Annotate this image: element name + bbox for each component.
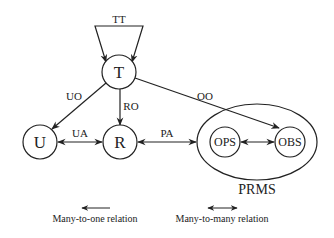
edge-label-uo: UO [66,90,82,102]
node-t: T [102,55,136,89]
node-u: U [23,125,57,159]
legend-many-to-many: Many-to-many relation [175,208,268,224]
node-label-ops: OPS [214,135,236,149]
diagram-canvas: TT T UO RO OO U R UA PA PRMS [0,0,334,238]
node-r: R [103,125,137,159]
edge-ro: RO [120,89,139,125]
group-label-prms: PRMS [238,182,275,197]
edge-label-tt: TT [112,13,126,25]
legend-label-many-to-many: Many-to-many relation [175,213,268,224]
edge-label-ro: RO [123,100,138,112]
edge-ua: UA [58,127,102,142]
edge-label-ua: UA [72,127,88,139]
legend-label-many-to-one: Many-to-one relation [52,213,137,224]
node-obs: OBS [275,127,305,157]
legend-many-to-one: Many-to-one relation [52,208,137,224]
edge-pa: PA [138,127,196,142]
node-ops: OPS [210,127,240,157]
node-label-u: U [34,133,46,152]
edge-uo: UO [52,83,106,129]
edge-label-oo: OO [197,90,213,102]
node-label-t: T [114,63,125,82]
node-label-r: R [114,133,126,152]
edge-label-pa: PA [160,127,173,139]
node-label-obs: OBS [278,135,301,149]
